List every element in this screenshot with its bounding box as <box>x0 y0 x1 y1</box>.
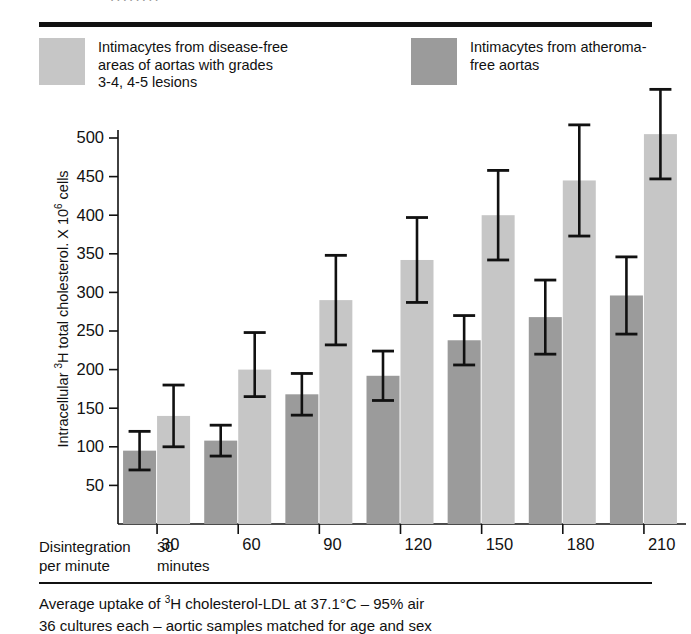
y-axis-tick-label: 100 <box>76 437 104 455</box>
x-axis-tick-label: 210 <box>648 535 676 554</box>
y-axis-tick-label: 350 <box>76 244 104 262</box>
y-axis-tick-label: 250 <box>76 321 104 339</box>
figure-container: ........ Intimacytes from disease-free a… <box>0 0 691 634</box>
y-axis-tick-label: 450 <box>76 167 104 185</box>
figure-footnote: Average uptake of 3H cholesterol-LDL at … <box>39 589 679 634</box>
x-axis-tick-label: 150 <box>486 535 514 554</box>
bar-chart: 50100150200250300350400450500 <box>0 0 691 580</box>
bottom-divider-rule <box>39 582 652 584</box>
bar-dark[interactable] <box>448 340 481 524</box>
y-axis-tick-label: 500 <box>76 128 104 146</box>
bar-light[interactable] <box>644 134 677 524</box>
y-axis-tick-label: 300 <box>76 283 104 301</box>
y-axis-tick-label: 400 <box>76 206 104 224</box>
x-axis-tick-label: 60 <box>242 535 260 554</box>
x-axis-caption-left: Disintegration per minute <box>39 537 131 575</box>
y-axis-tick-label: 150 <box>76 399 104 417</box>
footnote-line-1: Average uptake of 3H cholesterol-LDL at … <box>39 589 679 615</box>
x-axis-tick-label: 90 <box>323 535 341 554</box>
y-axis-tick-label: 200 <box>76 360 104 378</box>
x-axis-tick-label: 120 <box>405 535 433 554</box>
footnote-line-2: 36 cultures each – aortic samples matche… <box>39 615 679 634</box>
x-axis-tick-label: 30 <box>161 535 179 554</box>
bar-light[interactable] <box>482 215 515 524</box>
x-axis-tick-label: 180 <box>567 535 595 554</box>
y-axis-tick-label: 50 <box>86 476 104 494</box>
